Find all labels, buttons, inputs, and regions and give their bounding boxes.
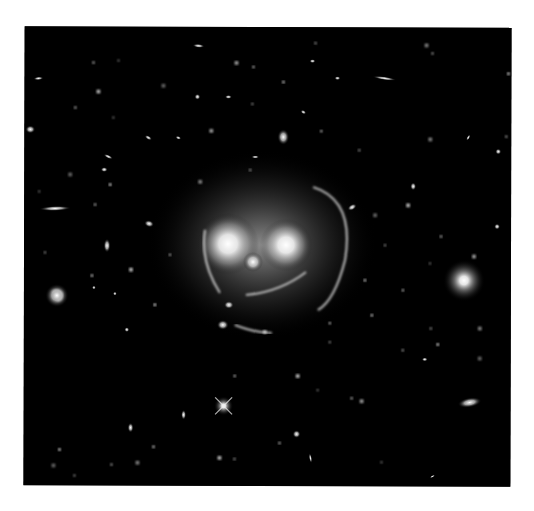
galaxy <box>334 76 340 80</box>
faint-source <box>360 399 364 403</box>
faint-source <box>505 135 507 137</box>
faint-source <box>68 172 72 176</box>
spiral-galaxy <box>45 284 68 307</box>
galaxy <box>128 423 134 433</box>
galaxy <box>113 292 117 296</box>
faint-source <box>251 103 253 105</box>
galaxy <box>494 224 500 230</box>
faint-source <box>358 149 361 152</box>
faint-source <box>94 203 97 206</box>
faint-source <box>169 254 171 256</box>
faint-source <box>198 180 202 184</box>
faint-source <box>96 90 100 94</box>
faint-source <box>117 59 119 61</box>
faint-source <box>373 213 377 217</box>
faint-source <box>73 474 75 476</box>
faint-source <box>472 255 476 259</box>
faint-source <box>129 268 133 272</box>
galaxy-cluster-image <box>23 26 511 486</box>
galaxy <box>277 129 289 145</box>
faint-source <box>406 203 410 207</box>
faint-source <box>249 168 252 171</box>
faint-source <box>296 374 300 378</box>
galaxy <box>25 125 35 133</box>
faint-source <box>252 66 254 68</box>
faint-source <box>402 349 404 351</box>
faint-source <box>58 448 61 451</box>
bright-cluster-galaxy <box>260 219 313 272</box>
faint-source <box>92 61 95 64</box>
galaxy <box>217 320 229 330</box>
galaxy <box>224 301 234 309</box>
galaxy <box>310 59 316 63</box>
galaxy <box>410 182 416 190</box>
faint-source <box>152 445 155 448</box>
faint-source <box>329 341 331 343</box>
faint-source <box>320 130 322 132</box>
galaxy <box>251 155 259 158</box>
faint-source <box>74 106 77 109</box>
galaxy <box>101 167 108 172</box>
galaxy <box>194 94 200 100</box>
faint-source <box>209 129 213 133</box>
faint-source <box>431 52 433 54</box>
cluster-halo <box>147 150 377 341</box>
faint-source <box>316 389 318 391</box>
faint-source <box>314 42 317 45</box>
galaxy <box>181 410 186 420</box>
faint-source <box>112 116 114 118</box>
space-image-frame <box>23 26 511 486</box>
galaxy <box>104 239 111 253</box>
faint-source <box>478 327 482 331</box>
faint-source <box>233 457 236 460</box>
elliptical-galaxy <box>443 259 485 301</box>
faint-source <box>384 244 386 246</box>
faint-source <box>329 322 331 324</box>
faint-source <box>278 441 281 444</box>
galaxy <box>495 149 501 155</box>
faint-source <box>439 235 442 238</box>
faint-source <box>161 84 165 88</box>
faint-source <box>478 357 482 361</box>
faint-source <box>363 279 366 282</box>
faint-source <box>217 456 221 460</box>
faint-source <box>507 72 510 75</box>
faint-source <box>235 61 239 65</box>
faint-source <box>38 190 40 192</box>
faint-source <box>110 463 112 465</box>
faint-source <box>44 251 46 253</box>
galaxy <box>225 95 232 99</box>
faint-source <box>350 397 353 400</box>
cluster-member-galaxy <box>243 252 263 272</box>
faint-source <box>429 262 431 264</box>
faint-source <box>380 461 382 463</box>
faint-source <box>109 183 112 186</box>
faint-source <box>370 314 373 317</box>
faint-source <box>153 303 156 306</box>
faint-source <box>135 461 139 465</box>
faint-source <box>263 330 267 334</box>
galaxy <box>92 286 96 290</box>
foreground-star <box>214 396 233 415</box>
faint-source <box>428 137 432 141</box>
galaxy <box>293 430 301 438</box>
faint-source <box>436 343 439 346</box>
faint-source <box>233 375 235 377</box>
faint-source <box>90 274 93 277</box>
faint-source <box>402 289 404 291</box>
galaxy <box>422 357 428 361</box>
faint-source <box>51 463 55 467</box>
faint-source <box>425 43 429 47</box>
faint-source <box>282 80 285 83</box>
galaxy <box>124 327 129 332</box>
faint-source <box>429 327 432 330</box>
